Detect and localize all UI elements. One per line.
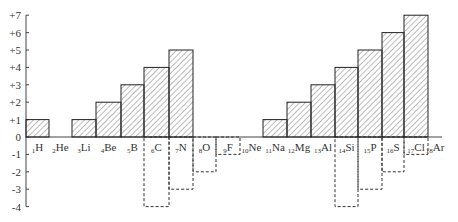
y-tick-label: 0 <box>16 131 22 143</box>
y-tick-label: +5 <box>9 44 21 56</box>
element-label-p: 15P <box>363 141 376 155</box>
positive-bar-si <box>335 67 358 137</box>
y-tick-label: +1 <box>9 114 21 126</box>
element-label-ar: 18Ar <box>426 141 445 155</box>
positive-bar-s <box>382 33 404 137</box>
positive-bar-al <box>311 85 335 137</box>
y-tick-label: +4 <box>9 61 21 73</box>
element-label-na: 11Na <box>265 141 285 155</box>
y-tick-label: +7 <box>9 9 21 21</box>
element-label-b: 5B <box>127 141 138 155</box>
positive-valence-bars <box>26 15 428 137</box>
element-label-o: 8O <box>199 141 211 155</box>
y-tick-label: -3 <box>12 183 22 195</box>
element-label-ne: 10Ne <box>242 141 262 155</box>
y-tick-label: -1 <box>12 148 21 160</box>
element-label-mg: 12Mg <box>288 141 311 155</box>
y-tick-label: +2 <box>9 96 21 108</box>
element-label-he: 2He <box>52 141 68 155</box>
element-label-be: 4Be <box>101 141 117 155</box>
element-label-s: 16S <box>386 141 399 155</box>
element-label-c: 6C <box>151 141 162 155</box>
positive-bar-n <box>169 50 193 137</box>
y-tick-label: -4 <box>12 201 22 213</box>
positive-bar-c <box>144 67 169 137</box>
element-labels: 1H2He3Li4Be5B6C7N8O9F10Ne11Na12Mg13Al14S… <box>32 141 445 155</box>
valence-bar-chart: +7+6+5+4+3+2+10-1-2-3-4 1H2He3Li4Be5B6C7… <box>0 0 458 222</box>
element-label-h: 1H <box>32 141 44 155</box>
positive-bar-li <box>72 120 96 137</box>
element-label-f: 9F <box>223 141 233 155</box>
element-label-li: 3Li <box>77 141 90 155</box>
positive-bar-cl <box>404 15 428 137</box>
element-label-al: 13Al <box>314 141 332 155</box>
y-tick-label: +3 <box>9 79 21 91</box>
positive-bar-be <box>96 102 121 137</box>
element-label-si: 14Si <box>338 141 354 155</box>
element-label-n: 7N <box>175 141 187 155</box>
element-label-cl: 17Cl <box>407 141 424 155</box>
positive-bar-mg <box>287 102 311 137</box>
positive-bar-p <box>358 50 382 137</box>
positive-bar-b <box>121 85 144 137</box>
positive-bar-na <box>263 120 287 137</box>
positive-bar-h <box>26 120 49 137</box>
y-axis: +7+6+5+4+3+2+10-1-2-3-4 <box>9 9 29 212</box>
y-tick-label: -2 <box>12 166 21 178</box>
y-tick-label: +6 <box>9 27 21 39</box>
